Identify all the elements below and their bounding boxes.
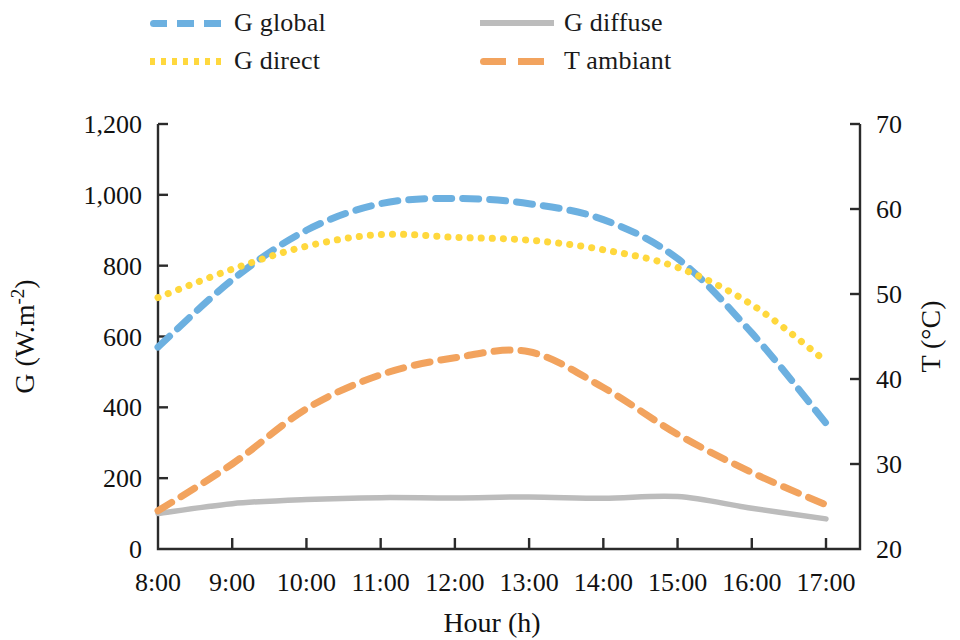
y-axis-title-superscript: -2 — [7, 289, 28, 305]
y2-axis-title: T (°C) — [915, 300, 946, 372]
x-axis-tick-label: 15:00 — [648, 568, 707, 597]
series-line-t-ambiant — [158, 350, 826, 511]
series-line-g-direct — [158, 234, 826, 361]
series-line-g-diffuse — [158, 496, 826, 519]
x-axis-tick-label: 16:00 — [722, 568, 781, 597]
y2-axis-tick-label: 50 — [876, 280, 902, 309]
x-axis-tick-label: 14:00 — [574, 568, 633, 597]
right-axis-spine — [826, 124, 860, 549]
y-axis-tick-label: 400 — [103, 393, 142, 422]
y-axis-title: G (W.m-2) — [7, 279, 41, 393]
x-axis-tick-label: 9:00 — [209, 568, 255, 597]
series-line-g-global — [158, 198, 826, 423]
y-axis-tick-label: 1,000 — [84, 181, 143, 210]
x-axis-tick-label: 12:00 — [425, 568, 484, 597]
x-axis-title: Hour (h) — [443, 607, 540, 638]
x-axis-tick-label: 8:00 — [135, 568, 181, 597]
y2-axis-tick-label: 20 — [876, 535, 902, 564]
plot-area: 02004006008001,0001,2002030405060708:009… — [0, 0, 960, 640]
y-axis-tick-label: 200 — [103, 464, 142, 493]
axis-labels-layer: 02004006008001,0001,2002030405060708:009… — [7, 110, 947, 638]
x-axis-tick-label: 17:00 — [796, 568, 855, 597]
chart-figure: G global G diffuse G direct T ambiant 02… — [0, 0, 960, 640]
y2-axis-tick-label: 30 — [876, 450, 902, 479]
y-axis-title-tail: ) — [9, 279, 40, 288]
x-axis-tick-label: 13:00 — [499, 568, 558, 597]
chart-canvas: 02004006008001,0001,2002030405060708:009… — [0, 0, 960, 640]
x-axis-tick-label: 10:00 — [277, 568, 336, 597]
y-axis-tick-label: 0 — [129, 535, 142, 564]
y2-axis-tick-label: 40 — [876, 365, 902, 394]
x-axis-tick-label: 11:00 — [352, 568, 410, 597]
y-axis-tick-label: 600 — [103, 323, 142, 352]
series-layer — [158, 198, 826, 519]
y2-axis-tick-label: 70 — [876, 110, 902, 139]
y-axis-tick-label: 1,200 — [84, 110, 143, 139]
left-bottom-axis-spine — [158, 124, 826, 549]
y2-axis-tick-label: 60 — [876, 195, 902, 224]
y-axis-tick-label: 800 — [103, 252, 142, 281]
